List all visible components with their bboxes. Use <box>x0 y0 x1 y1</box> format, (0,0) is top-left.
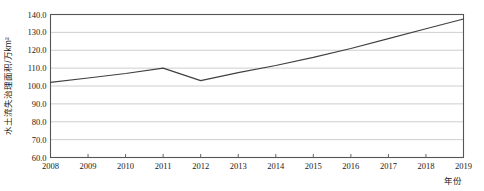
line-chart: 60.070.080.090.0100.0110.0120.0130.0140.… <box>0 0 484 191</box>
y-tick-label-140.0: 140.0 <box>27 10 46 20</box>
x-tick-label-2008: 2008 <box>42 161 59 171</box>
y-tick-label-80.0: 80.0 <box>32 117 47 127</box>
x-tick-label-2014: 2014 <box>267 161 285 171</box>
x-tick-label-2010: 2010 <box>117 161 134 171</box>
x-tick-label-2019: 2019 <box>455 161 472 171</box>
x-tick-label-2018: 2018 <box>417 161 434 171</box>
x-tick-label-2013: 2013 <box>230 161 247 171</box>
y-tick-label-110.0: 110.0 <box>28 63 47 73</box>
y-tick-label-100.0: 100.0 <box>27 81 46 91</box>
chart-canvas: 60.070.080.090.0100.0110.0120.0130.0140.… <box>0 0 484 191</box>
x-axis-title: 年份 <box>444 176 462 186</box>
x-tick-label-2015: 2015 <box>305 161 322 171</box>
y-tick-label-70.0: 70.0 <box>32 135 47 145</box>
y-tick-label-120.0: 120.0 <box>27 45 46 55</box>
x-tick-label-2012: 2012 <box>192 161 209 171</box>
y-tick-label-130.0: 130.0 <box>27 27 46 37</box>
x-tick-label-2009: 2009 <box>80 161 97 171</box>
y-axis-title: 水土流失治理面积/万km² <box>3 37 13 135</box>
x-tick-label-2011: 2011 <box>155 161 172 171</box>
x-tick-label-2016: 2016 <box>342 161 359 171</box>
x-tick-label-2017: 2017 <box>380 161 397 171</box>
y-tick-label-90.0: 90.0 <box>32 99 47 109</box>
